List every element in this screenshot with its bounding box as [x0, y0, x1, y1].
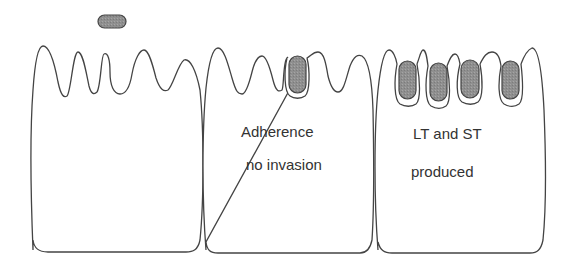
toxin-bacterium-3 [461, 60, 479, 98]
toxin-bacterium-2 [430, 63, 447, 101]
free-bacterium [98, 15, 126, 28]
cell-1-outline [31, 46, 203, 252]
adherent-bacterium [289, 56, 306, 93]
epithelial-cell-2 [203, 48, 374, 253]
no-invasion-label: no invasion [246, 157, 322, 172]
epithelial-cell-1 [31, 46, 203, 252]
toxin-bacterium-4 [502, 61, 519, 99]
produced-label: produced [411, 164, 474, 179]
diagram-canvas: Adherence no invasion LT and ST produced [0, 0, 573, 268]
toxin-bacterium-1 [399, 61, 416, 99]
adherence-label: Adherence [241, 124, 314, 139]
toxins-label: LT and ST [413, 126, 482, 141]
